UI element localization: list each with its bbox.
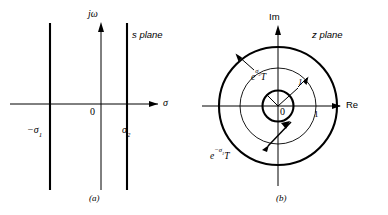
z-plane-label: z plane [312, 30, 343, 40]
sigma-axis [10, 101, 158, 107]
re-axis-label: Re [346, 100, 358, 110]
im-axis-label: Im [269, 12, 280, 22]
caption-b: (b) [276, 194, 287, 203]
re-axis [202, 103, 341, 109]
unit-circle-label: 1 [298, 78, 303, 87]
leader-inner-circle [262, 121, 291, 152]
label-sigma2: σ2 [122, 125, 130, 138]
sigma-axis-label: σ [163, 98, 168, 108]
origin-label-a: 0 [90, 107, 95, 117]
jomega-axis [98, 22, 104, 190]
label-minus-sigma1: −σ1 [27, 125, 42, 138]
label-e-minus-sigma1-T: e−σ1T [210, 150, 230, 162]
jomega-axis-label: jω [88, 9, 98, 19]
panel-s-plane: jω σ 0 −σ1 σ2 s plane (a) [0, 0, 194, 215]
s-plane-label: s plane [132, 30, 163, 40]
inner-radius-spoke [267, 95, 278, 106]
label-e-sigma2-T: eσ2T [251, 71, 266, 83]
panel-z-plane: Im Re 0 1 1 eσ2T e−σ1T z plane (b) [194, 0, 388, 215]
unit-tick-label: 1 [314, 110, 319, 119]
caption-a: (a) [89, 194, 100, 203]
z-plane-drawing [194, 0, 388, 215]
figure-container: jω σ 0 −σ1 σ2 s plane (a) [0, 0, 388, 215]
origin-label-b: 0 [280, 107, 285, 117]
